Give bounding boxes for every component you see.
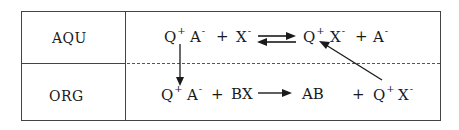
forward-arrow-icon [258,89,292,97]
transfer-up-arrow-icon [319,41,382,80]
transfer-down-arrow-icon [176,44,184,86]
equilibrium-arrow-icon [257,32,296,46]
reaction-arrows [0,0,459,130]
